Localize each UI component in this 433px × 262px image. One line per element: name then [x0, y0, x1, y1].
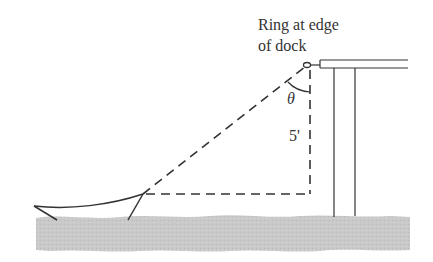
ring-label-line2: of dock: [258, 37, 306, 54]
boat: [34, 194, 143, 220]
rope-line: [143, 66, 306, 194]
ring-icon: [304, 63, 321, 68]
angle-label: θ: [287, 90, 295, 107]
ring-label-line1: Ring at edge: [258, 16, 339, 34]
height-label: 5': [289, 127, 300, 144]
water-surface: [36, 215, 410, 251]
dock: [320, 60, 408, 217]
boat-dock-diagram: Ring at edge of dock θ 5': [0, 0, 433, 262]
